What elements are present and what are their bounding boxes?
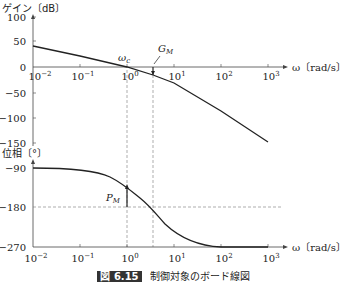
svg-text:10−1: 10−1 — [71, 252, 94, 264]
svg-text:−270: −270 — [0, 242, 26, 253]
figure-caption: 図 6.15制御対象のボード線図 — [0, 268, 347, 283]
phase-curve — [33, 168, 268, 247]
gm-label: GM — [158, 43, 174, 56]
gm-pointer — [154, 56, 160, 64]
pm-label: PM — [105, 192, 121, 205]
phase-axis-label: 位相〔°〕 — [2, 147, 47, 159]
svg-text:−90: −90 — [5, 163, 26, 174]
svg-text:102: 102 — [215, 70, 232, 82]
svg-text:−50: −50 — [5, 88, 26, 99]
svg-text:50: 50 — [13, 36, 26, 47]
phase-y-arrow-icon — [31, 159, 35, 164]
svg-text:100: 100 — [121, 70, 138, 82]
phase-omega-label: ω〔rad/s〕 — [292, 242, 346, 253]
phase-x-arrow-icon — [283, 245, 288, 249]
svg-text:ω〔rad/s〕: ω〔rad/s〕 — [292, 62, 346, 73]
phase-y-ticks: −90 −180 −270 — [0, 163, 26, 253]
gain-y-arrow-icon — [31, 14, 35, 19]
svg-text:102: 102 — [215, 252, 232, 264]
svg-text:10−2: 10−2 — [28, 70, 51, 82]
svg-text:0: 0 — [20, 62, 26, 73]
gain-x-arrow-icon — [283, 65, 288, 69]
gain-curve — [33, 46, 268, 142]
svg-text:100: 100 — [121, 252, 138, 264]
svg-text:ω〔rad/s〕: ω〔rad/s〕 — [292, 242, 346, 253]
svg-text:101: 101 — [168, 252, 185, 264]
svg-text:103: 103 — [262, 252, 279, 264]
figure-number: 図 6.15 — [97, 271, 141, 282]
gain-y-ticks: 100 50 0 −50 −100 −150 — [0, 12, 26, 149]
phase-x-ticks: 10−2 10−1 100 101 102 103 — [24, 252, 279, 264]
svg-text:103: 103 — [262, 70, 279, 82]
svg-text:100: 100 — [7, 12, 26, 23]
svg-text:10−1: 10−1 — [71, 70, 94, 82]
caption-text: 制御対象のボード線図 — [150, 271, 250, 282]
gain-omega-label: ω〔rad/s〕 — [292, 62, 346, 73]
svg-text:10−2: 10−2 — [24, 252, 47, 264]
svg-text:101: 101 — [168, 70, 185, 82]
svg-text:−180: −180 — [0, 202, 26, 213]
svg-text:−100: −100 — [0, 113, 26, 124]
omega-c-label: ωc — [118, 52, 130, 65]
bode-plot: ゲイン〔dB〕 100 50 0 −50 −100 −150 10−2 10−1… — [0, 0, 347, 287]
